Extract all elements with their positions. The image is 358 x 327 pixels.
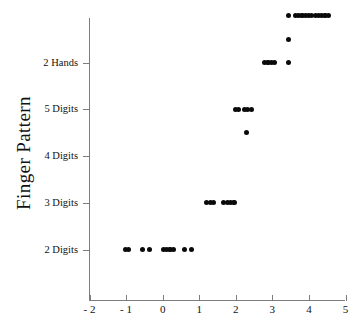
dot-plot-figure: Finger Pattern 2 Digits3 Digits4 Digits5… <box>0 0 358 327</box>
x-tick-label-4: 2 <box>221 303 251 315</box>
x-tick-1 <box>126 295 127 301</box>
y-tick-label-0: 2 Digits <box>8 244 78 255</box>
y-tick-label-4: 2 Hands <box>8 57 78 68</box>
y-tick-0 <box>83 250 90 251</box>
x-tick-3 <box>199 295 200 301</box>
y-tick-label-3: 5 Digits <box>8 103 78 114</box>
data-point <box>286 37 291 42</box>
x-tick-label-7: 5 <box>331 303 358 315</box>
data-point <box>211 200 216 205</box>
x-tick-label-2: 0 <box>148 303 178 315</box>
data-point <box>140 247 145 252</box>
y-axis-line <box>89 18 90 301</box>
y-tick-4 <box>83 63 90 64</box>
x-tick-label-5: 3 <box>257 303 287 315</box>
y-tick-2 <box>83 156 90 157</box>
data-point <box>272 60 277 65</box>
y-tick-1 <box>83 203 90 204</box>
data-point <box>249 107 254 112</box>
data-point <box>182 247 187 252</box>
data-point <box>189 247 194 252</box>
y-tick-label-2: 4 Digits <box>8 150 78 161</box>
x-tick-label-1: - 1 <box>111 303 141 315</box>
x-tick-5 <box>272 295 273 301</box>
x-tick-0 <box>90 295 91 301</box>
x-tick-7 <box>346 295 347 301</box>
data-point <box>286 13 291 18</box>
y-tick-label-1: 3 Digits <box>8 197 78 208</box>
y-tick-3 <box>83 109 90 110</box>
y-axis-title-wrapper: Finger Pattern <box>0 0 40 327</box>
x-tick-label-0: - 2 <box>75 303 105 315</box>
x-tick-label-3: 1 <box>184 303 214 315</box>
x-axis-line <box>89 300 345 301</box>
x-tick-4 <box>236 295 237 301</box>
x-tick-label-6: 4 <box>294 303 324 315</box>
data-point <box>231 200 236 205</box>
data-point <box>244 130 249 135</box>
data-point <box>171 247 176 252</box>
x-tick-2 <box>163 295 164 301</box>
x-tick-6 <box>309 295 310 301</box>
data-point <box>147 247 152 252</box>
data-point <box>326 13 331 18</box>
data-point <box>236 107 241 112</box>
data-point <box>126 247 131 252</box>
data-point <box>286 60 291 65</box>
